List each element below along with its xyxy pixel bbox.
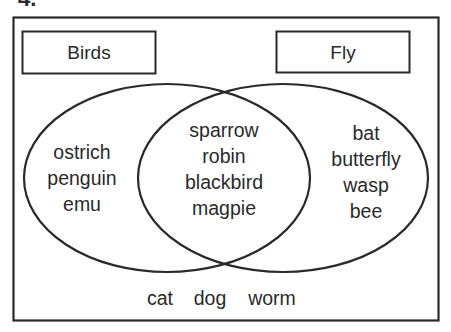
region-birds-only: ostrich penguin emu bbox=[47, 141, 116, 215]
region-item: bee bbox=[350, 200, 383, 222]
region-item: cat bbox=[147, 287, 174, 309]
region-item: blackbird bbox=[185, 171, 263, 193]
region-item: wasp bbox=[342, 174, 389, 196]
region-item: emu bbox=[63, 193, 101, 215]
region-item: sparrow bbox=[189, 119, 259, 141]
question-number: 4. bbox=[18, 0, 36, 11]
set-label-fly: Fly bbox=[277, 32, 410, 73]
fly-label-text: Fly bbox=[330, 42, 356, 63]
venn-diagram-canvas: 4. Birds Fly ostrich penguin emu sparrow… bbox=[0, 0, 451, 332]
region-intersection: sparrow robin blackbird magpie bbox=[185, 119, 263, 219]
birds-label-text: Birds bbox=[67, 42, 110, 63]
region-item: bat bbox=[352, 122, 380, 144]
region-item: dog bbox=[194, 287, 227, 309]
region-neither: cat dog worm bbox=[147, 287, 296, 309]
region-item: worm bbox=[247, 287, 296, 309]
region-item: penguin bbox=[47, 167, 116, 189]
set-label-birds: Birds bbox=[23, 32, 156, 74]
region-item: robin bbox=[202, 145, 245, 167]
region-item: butterfly bbox=[331, 148, 401, 170]
region-item: magpie bbox=[192, 197, 256, 219]
venn-diagram-figure: 4. Birds Fly ostrich penguin emu sparrow… bbox=[0, 0, 451, 332]
region-item: ostrich bbox=[53, 141, 110, 163]
region-fly-only: bat butterfly wasp bee bbox=[331, 122, 401, 222]
